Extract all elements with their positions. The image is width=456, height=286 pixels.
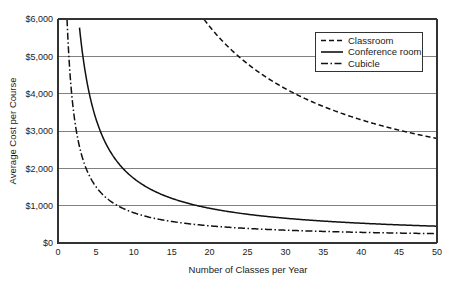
x-tick-label: 20: [205, 247, 215, 257]
x-tick-label: 15: [167, 247, 177, 257]
y-tick-label: $5,000: [25, 52, 53, 62]
y-axis-title: Average Cost per Course: [7, 77, 18, 184]
x-axis-tick-labels: 05101520253035404550: [55, 247, 442, 257]
line-chart: $0$1,000$2,000$3,000$4,000$5,000$6,000 0…: [0, 0, 456, 286]
y-tick-label: $4,000: [25, 89, 53, 99]
x-tick-label: 5: [93, 247, 98, 257]
x-axis-title: Number of Classes per Year: [189, 264, 308, 275]
x-tick-label: 30: [280, 247, 290, 257]
y-axis-tick-labels: $0$1,000$2,000$3,000$4,000$5,000$6,000: [25, 14, 53, 248]
x-tick-label: 45: [394, 247, 404, 257]
x-tick-label: 0: [55, 247, 60, 257]
x-tick-label: 50: [432, 247, 442, 257]
x-tick-label: 25: [242, 247, 252, 257]
y-tick-label: $0: [43, 238, 53, 248]
x-tick-label: 40: [356, 247, 366, 257]
y-tick-label: $2,000: [25, 164, 53, 174]
legend-label-conference-room: Conference room: [348, 46, 421, 57]
x-tick-label: 10: [129, 247, 139, 257]
y-tick-label: $3,000: [25, 126, 53, 136]
legend-label-classroom: Classroom: [348, 35, 393, 46]
y-tick-label: $6,000: [25, 14, 53, 24]
legend-label-cubicle: Cubicle: [348, 58, 380, 69]
chart-figure: $0$1,000$2,000$3,000$4,000$5,000$6,000 0…: [0, 0, 456, 286]
x-tick-label: 35: [318, 247, 328, 257]
y-tick-label: $1,000: [25, 201, 53, 211]
chart-legend: ClassroomConference roomCubicle: [315, 32, 422, 71]
